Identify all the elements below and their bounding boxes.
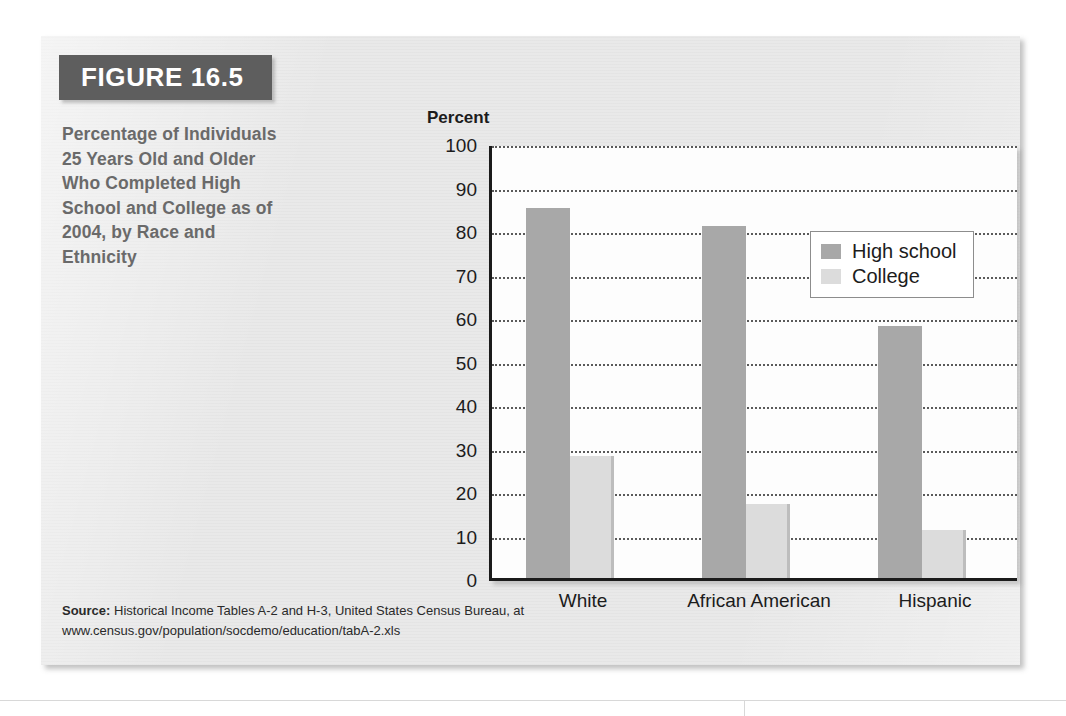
bar-chart: Percent 1009080706050403020100 High scho… bbox=[379, 98, 979, 598]
y-tick-label-80: 80 bbox=[393, 222, 477, 244]
legend-label-high-school: High school bbox=[852, 240, 957, 263]
figure-number-label: FIGURE 16.5 bbox=[59, 62, 244, 93]
bar-african-american-high-school bbox=[702, 226, 746, 578]
figure-panel: FIGURE 16.5 Percentage of Individuals 25… bbox=[41, 36, 1020, 665]
page-rule-vertical bbox=[744, 700, 745, 716]
bar-african-american-college bbox=[746, 504, 790, 578]
bar-hispanic-college bbox=[922, 530, 966, 578]
y-tick-label-10: 10 bbox=[393, 527, 477, 549]
y-axis-title: Percent bbox=[427, 108, 489, 128]
source-note-prefix: Source: bbox=[62, 603, 110, 618]
y-tick-label-70: 70 bbox=[393, 266, 477, 288]
y-tick-label-60: 60 bbox=[393, 309, 477, 331]
gridline-60 bbox=[492, 320, 1017, 322]
gridline-50 bbox=[492, 364, 1017, 366]
source-note-text: Historical Income Tables A-2 and H-3, Un… bbox=[110, 603, 524, 618]
figure-number-badge: FIGURE 16.5 bbox=[59, 55, 272, 100]
bar-white-college bbox=[570, 456, 614, 578]
plot-area: High school College bbox=[489, 146, 1017, 581]
source-note: Source: Historical Income Tables A-2 and… bbox=[62, 601, 942, 641]
page-rule-horizontal bbox=[0, 700, 1066, 701]
y-tick-label-90: 90 bbox=[393, 179, 477, 201]
legend-item-high-school: High school bbox=[821, 239, 957, 264]
y-tick-label-50: 50 bbox=[393, 353, 477, 375]
gridline-90 bbox=[492, 190, 1017, 192]
y-tick-label-0: 0 bbox=[393, 570, 477, 592]
legend-swatch-college bbox=[821, 269, 841, 284]
y-tick-label-30: 30 bbox=[393, 440, 477, 462]
bar-white-high-school bbox=[526, 208, 570, 578]
bar-hispanic-high-school bbox=[878, 326, 922, 578]
gridline-40 bbox=[492, 407, 1017, 409]
legend-label-college: College bbox=[852, 265, 920, 288]
gridline-100 bbox=[492, 146, 1017, 148]
legend-swatch-high-school bbox=[821, 244, 841, 259]
y-tick-label-100: 100 bbox=[393, 135, 477, 157]
source-note-url: www.census.gov/population/socdemo/educat… bbox=[62, 623, 400, 638]
chart-legend: High school College bbox=[810, 231, 974, 298]
gridline-30 bbox=[492, 451, 1017, 453]
y-tick-label-20: 20 bbox=[393, 483, 477, 505]
legend-item-college: College bbox=[821, 264, 957, 289]
figure-caption: Percentage of Individuals 25 Years Old a… bbox=[62, 122, 277, 269]
y-tick-label-40: 40 bbox=[393, 396, 477, 418]
